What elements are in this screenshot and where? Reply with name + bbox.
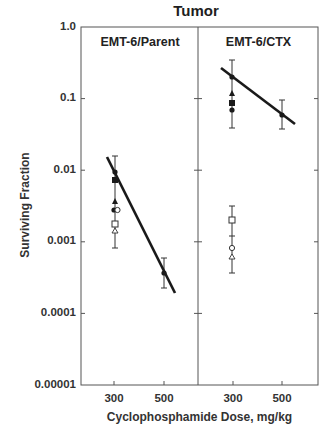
axes-frame — [81, 27, 318, 385]
parent-panel-data — [107, 156, 175, 293]
y-ticks — [81, 99, 318, 314]
x-tick-label: 300 — [104, 392, 123, 404]
open-triangle-marker — [229, 254, 235, 259]
open-square-marker — [112, 221, 118, 227]
filled-square-marker — [112, 177, 118, 183]
open-triangle-marker — [112, 228, 118, 233]
open-circle-marker — [115, 207, 120, 212]
filled-triangle-marker — [229, 90, 235, 96]
filled-square-marker — [229, 100, 235, 106]
x-tick-label: 300 — [223, 392, 242, 404]
mean-marker — [112, 169, 117, 174]
filled-circle-marker — [229, 107, 234, 112]
filled-triangle-marker — [112, 198, 118, 204]
mean-marker — [279, 112, 284, 117]
open-circle-marker — [229, 245, 234, 250]
ctx-panel-data — [221, 60, 295, 273]
x-axis-label: Cyclophosphamide Dose, mg/kg — [81, 410, 318, 424]
open-square-marker — [229, 217, 235, 223]
mean-marker — [229, 74, 234, 79]
plot-area — [0, 0, 326, 430]
x-tick-label: 500 — [154, 392, 173, 404]
panel-label-ctx: EMT-6/CTX — [199, 35, 318, 49]
x-tick-label: 500 — [272, 392, 291, 404]
panel-label-parent: EMT-6/Parent — [82, 35, 198, 49]
mean-marker — [161, 270, 166, 275]
